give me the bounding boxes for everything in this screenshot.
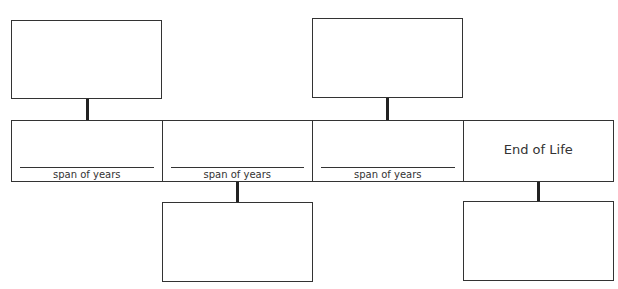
top-box-1 — [11, 20, 162, 99]
connector-bottom-1 — [236, 182, 239, 202]
top-box-2 — [312, 18, 463, 98]
bottom-box-1 — [162, 202, 313, 282]
answer-line — [321, 167, 455, 168]
end-of-life-title: End of Life — [464, 142, 614, 158]
timeline-cell-2: span of years — [163, 121, 314, 181]
span-of-years-label: span of years — [12, 169, 162, 181]
timeline-row: span of years span of years span of year… — [11, 120, 614, 182]
connector-top-2 — [386, 98, 389, 120]
span-of-years-label: span of years — [163, 169, 313, 181]
span-of-years-label: span of years — [313, 169, 463, 181]
timeline-cell-1: span of years — [12, 121, 163, 181]
answer-line — [20, 167, 154, 168]
answer-line — [171, 167, 305, 168]
connector-bottom-2 — [537, 182, 540, 201]
timeline-cell-3: span of years — [313, 121, 464, 181]
connector-top-1 — [86, 99, 89, 120]
bottom-box-2 — [463, 201, 614, 281]
timeline-cell-4: End of Life — [464, 121, 614, 181]
